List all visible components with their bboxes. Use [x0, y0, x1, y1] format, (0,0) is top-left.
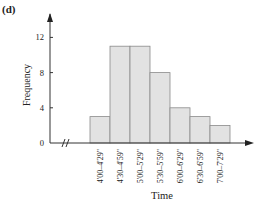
x-tick-label: 4'30–4'59"	[116, 149, 125, 183]
x-axis-arrow-icon	[245, 140, 254, 146]
x-tick-labels: 4'00–4'29"4'30–4'59"5'00–5'29"5'30–5'59"…	[96, 149, 225, 183]
bars	[90, 46, 230, 143]
y-axis-label: Frequency	[21, 64, 32, 106]
histogram-bar	[90, 117, 110, 143]
x-tick-label: 5'00–5'29"	[136, 149, 145, 183]
histogram-bar	[130, 46, 150, 143]
histogram-chart: (d) 04812 4'00–4'29"4'30–4'59"5'00–5'29"…	[0, 0, 258, 203]
y-tick-label: 12	[36, 32, 45, 42]
histogram-bar	[190, 117, 210, 143]
histogram-bar	[210, 125, 230, 143]
x-tick-label: 5'30–5'59"	[156, 149, 165, 183]
histogram-bar	[170, 108, 190, 143]
x-tick-label: 6'30–6'59"	[196, 149, 205, 183]
x-axis-label: Time	[151, 190, 173, 201]
x-tick-label: 6'00–6'29"	[176, 149, 185, 183]
y-tick-label: 4	[40, 103, 45, 113]
histogram-bar	[150, 73, 170, 143]
y-tick-label: 0	[40, 138, 44, 148]
x-tick-label: 4'00–4'29"	[96, 149, 105, 183]
y-tick-label: 8	[40, 68, 44, 78]
panel-label: (d)	[2, 3, 16, 16]
x-tick-label: 7'00–7'29"	[216, 149, 225, 183]
histogram-bar	[110, 46, 130, 143]
y-axis-arrow-icon	[47, 13, 53, 22]
